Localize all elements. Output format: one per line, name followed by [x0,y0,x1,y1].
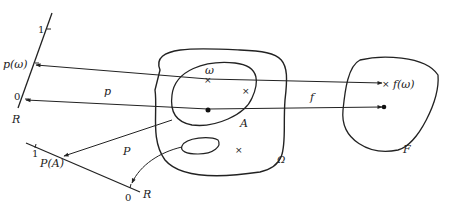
axis-top-R-label: R [11,113,20,126]
set-F-label: F [402,143,411,156]
small-event-set [182,138,219,154]
axis-bottom-R-label: R [142,188,151,201]
sample-space-omega [155,49,287,176]
set-F [343,57,438,151]
diagram-svg: 1 0 R p(ω) p f Ω A × ω × × F × f(ω) 1 0 [0,0,449,208]
real-axis-bottom: 1 0 R P(A) [26,143,151,203]
cross-point-2: × [235,145,243,155]
omega-label: Ω [276,154,285,165]
omega-point: × ω [204,64,214,85]
p-map-label: p [104,85,111,98]
cross-point-1: × [242,86,250,96]
f-omega-cross: × [382,79,390,89]
p-map-arrows: p [26,65,208,109]
diagram-canvas: 1 0 R p(ω) p f Ω A × ω × × F × f(ω) 1 0 [0,0,449,208]
svg-text:ω: ω [205,64,214,77]
f-image-dot [382,105,387,110]
axis-bottom-zero-label: 0 [125,192,131,203]
P-map-arrows: P [64,120,182,183]
P-A-label: P(A) [39,157,64,170]
set-A-label: A [239,117,248,130]
P-map-label: P [122,145,131,158]
axis-top-one-label: 1 [38,24,44,35]
dot-point-A [206,108,211,113]
axis-top-zero-label: 0 [14,91,20,102]
p-omega-label: p(ω) [3,58,28,71]
f-map-label: f [309,91,316,104]
f-map-arrows: f [208,79,382,109]
real-axis-top: 1 0 R p(ω) [3,13,52,126]
axis-bottom-one-label: 1 [32,148,38,159]
f-omega-label: f(ω) [392,78,415,91]
